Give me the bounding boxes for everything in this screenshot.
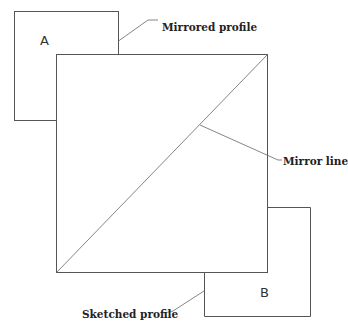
profile-b-label: B [260, 285, 269, 300]
mirrored-profile-callout: Mirrored profile [162, 21, 257, 33]
mirror-line-callout: Mirror line [283, 155, 348, 167]
profile-a-label: A [40, 33, 49, 48]
sketched-profile-callout: Sketched profile [82, 308, 179, 320]
mirror-diagram: A B Mirrored profile Mirror line Sketche… [0, 0, 348, 333]
mirrored-profile-leader [119, 20, 159, 41]
